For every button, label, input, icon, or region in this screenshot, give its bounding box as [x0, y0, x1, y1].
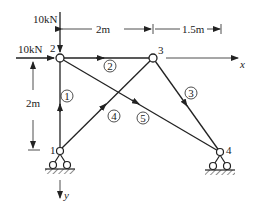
node-3 — [149, 54, 157, 62]
x-axis-label: x — [239, 58, 245, 70]
svg-text:3: 3 — [188, 87, 194, 99]
svg-text:4: 4 — [226, 144, 232, 156]
truss-diagram: 1 2 3 4 5 1 2 3 4 — [0, 0, 258, 208]
member-5 — [60, 58, 220, 152]
y-axis-label: y — [63, 189, 69, 201]
svg-text:1: 1 — [64, 90, 70, 102]
dim-1-5m-label: 1.5m — [182, 23, 205, 35]
svg-text:2: 2 — [107, 60, 113, 72]
dim-vertical-label: 2m — [26, 97, 41, 109]
svg-text:3: 3 — [158, 44, 164, 56]
load-vertical-label: 10kN — [33, 13, 58, 25]
member-arrows — [60, 58, 187, 112]
node-labels: 1 2 3 4 — [50, 42, 232, 156]
node-2 — [56, 54, 64, 62]
svg-text:5: 5 — [140, 112, 146, 124]
svg-text:4: 4 — [111, 110, 117, 122]
members — [60, 58, 220, 152]
dim-2m-label: 2m — [96, 23, 111, 35]
svg-text:1: 1 — [50, 144, 56, 156]
load-horizontal-label: 10kN — [18, 43, 43, 55]
svg-text:2: 2 — [50, 42, 56, 54]
